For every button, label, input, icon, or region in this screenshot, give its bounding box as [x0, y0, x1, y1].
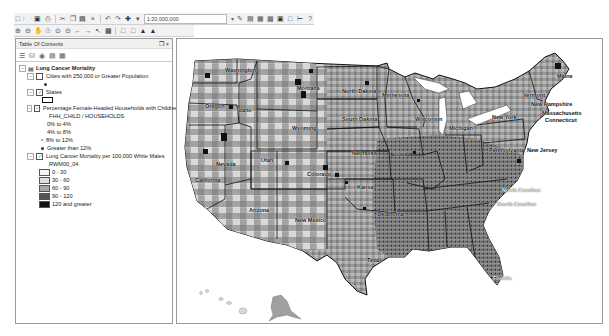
legend-class-row: 0 - 30 [19, 168, 169, 176]
undo-icon[interactable]: ↶ [104, 15, 112, 23]
zoom-in-icon[interactable]: ⊕ [14, 27, 22, 35]
layer-visibility-checkbox[interactable]: ✓ [36, 89, 43, 96]
collapse-icon[interactable]: − [27, 73, 34, 80]
toolbar-separator [55, 15, 56, 23]
legend-class-row: 0% to 4% [19, 120, 169, 128]
open-icon[interactable]: 🗁 [24, 15, 32, 23]
list-by-selection-icon[interactable]: ▤ [49, 52, 56, 59]
collapse-icon[interactable]: − [27, 153, 34, 160]
copy-icon[interactable]: ❐ [69, 15, 77, 23]
html-popup-icon[interactable]: ▲ [139, 27, 147, 35]
state-label: Texas [367, 257, 382, 263]
legend-field-row: FHH_CHILD / HOUSEHOLDS [19, 112, 169, 120]
close-icon[interactable]: × [166, 41, 169, 47]
layer-row-cities[interactable]: − Cities with 250,000 or Greater Populat… [19, 72, 169, 80]
layers-icon: ▤ [28, 65, 34, 72]
legend-class-row: 60 - 90 [19, 184, 169, 192]
legend-swatch [39, 169, 50, 176]
list-by-visibility-icon[interactable]: ◉ [39, 52, 46, 59]
state-polygon-symbol [42, 97, 53, 103]
paste-icon[interactable]: ▤ [79, 15, 87, 23]
catalog-icon[interactable]: ▦ [256, 15, 264, 23]
model-icon[interactable]: ⊢ [296, 15, 304, 23]
legend-class-row: Greater than 12% [19, 144, 169, 152]
arctoolbox-icon[interactable]: ▣ [276, 15, 284, 23]
zoom-out-icon[interactable]: ⊖ [24, 27, 32, 35]
editor-icon[interactable]: ✎ [236, 15, 244, 23]
legend-symbol-row [19, 96, 169, 104]
measure-icon[interactable]: □ [129, 27, 137, 35]
fixed-zoom-in-icon[interactable]: ⊙ [54, 27, 62, 35]
state-label: Arizona [249, 207, 269, 213]
city-point-symbol [44, 83, 47, 86]
legend-class-label: 4% to 8% [47, 129, 71, 135]
state-label: Washington [225, 67, 256, 73]
forward-icon[interactable]: → [84, 27, 92, 35]
redo-icon[interactable]: ↷ [114, 15, 122, 23]
dot-symbol-empty [41, 123, 44, 126]
list-by-drawing-order-icon[interactable]: ☰ [19, 52, 26, 59]
new-icon[interactable]: □ [14, 15, 22, 23]
list-by-source-icon[interactable]: ⛁ [29, 52, 36, 59]
scale-dropdown-icon[interactable]: ▾ [231, 15, 234, 22]
options-icon[interactable]: ▦ [59, 52, 66, 59]
python-icon[interactable]: □ [286, 15, 294, 23]
save-icon[interactable]: ▣ [34, 15, 42, 23]
state-label: Michigan [449, 125, 473, 131]
dot-symbol-large [41, 147, 44, 150]
search-window-icon[interactable]: ▩ [266, 15, 274, 23]
toc-window-icon[interactable]: ▤ [246, 15, 254, 23]
collapse-icon[interactable]: − [19, 65, 26, 72]
delete-icon[interactable]: × [89, 15, 97, 23]
collapse-icon[interactable]: − [27, 89, 34, 96]
time-slider-icon[interactable]: ▲ [149, 27, 157, 35]
legend-class-label: 90 - 120 [52, 193, 73, 199]
select-icon[interactable]: ↖ [94, 27, 102, 35]
map-scale-input[interactable]: 1:20,000,000 [144, 14, 228, 24]
find-icon[interactable]: □ [119, 27, 127, 35]
layer-row-lung-cancer-mortality[interactable]: − ✓ Lung Cancer Mortality per 100,000 Wh… [19, 152, 169, 160]
back-icon[interactable]: ← [74, 27, 82, 35]
add-data-dropdown-icon[interactable]: ▾ [134, 15, 142, 23]
data-frame-name: Lung Cancer Mortality [36, 65, 95, 71]
collapse-icon[interactable]: − [27, 105, 32, 112]
layer-visibility-checkbox[interactable] [36, 73, 43, 80]
full-extent-icon[interactable]: ☉ [44, 27, 52, 35]
pan-icon[interactable]: ✋ [34, 27, 42, 35]
layer-visibility-checkbox[interactable]: ✓ [36, 153, 43, 160]
table-of-contents-panel: Table Of Contents ❒ × ☰ ⛁ ◉ ▤ ▦ − ▤ Lung… [15, 38, 173, 324]
legend-class-label: 0% to 4% [47, 121, 71, 127]
help-icon[interactable]: ? [306, 15, 314, 23]
layer-name: Percentage Female-Headed Households with… [43, 105, 178, 111]
layer-visibility-checkbox[interactable]: ✓ [34, 105, 40, 112]
standard-toolbar: □ 🗁 ▣ ⎙ ✂ ❐ ▤ × ↶ ↷ ✚ ▾ 1:20,000,000 ▾ ✎… [14, 13, 314, 25]
legend-class-label: Greater than 12% [47, 145, 91, 151]
state-label: Minnesota [382, 92, 409, 98]
layer-row-female-headed-households[interactable]: − ✓ Percentage Female-Headed Households … [19, 104, 169, 112]
legend-class-row: 30 - 60 [19, 176, 169, 184]
fixed-zoom-out-icon[interactable]: ⊝ [64, 27, 72, 35]
cut-icon[interactable]: ✂ [59, 15, 67, 23]
state-label: Montana [297, 85, 320, 91]
state-label: Vermont [523, 92, 545, 98]
map-display[interactable]: WashingtonMontanaNorth DakotaOregonIdaho… [176, 38, 603, 324]
pin-icon[interactable]: ❒ [159, 41, 164, 47]
toc-header: Table Of Contents ❒ × [16, 39, 172, 49]
state-label: Nebraska [352, 150, 377, 156]
add-data-icon[interactable]: ✚ [124, 15, 132, 23]
state-label: Connecticut [545, 117, 577, 123]
legend-class-row: 8% to 12% [19, 136, 169, 144]
toolbar-separator [115, 27, 116, 35]
layer-row-states[interactable]: − ✓ States [19, 88, 169, 96]
legend-swatch [39, 193, 50, 200]
print-icon[interactable]: ⎙ [44, 15, 52, 23]
state-label: Pennsylvania [489, 147, 524, 153]
legend-field-row: RWM00_04 [19, 160, 169, 168]
legend-class-label: 0 - 30 [52, 169, 66, 175]
identify-icon[interactable]: ▩ [104, 27, 112, 35]
data-frame-row[interactable]: − ▤ Lung Cancer Mortality [19, 64, 169, 72]
state-label: New Mexico [295, 217, 326, 223]
toc-toolbar: ☰ ⛁ ◉ ▤ ▦ [16, 49, 172, 62]
toc-title: Table Of Contents [19, 41, 63, 47]
tools-toolbar: ⊕ ⊖ ✋ ☉ ⊙ ⊝ ← → ↖ ▩ □ □ ▲ ▲ [14, 25, 194, 37]
